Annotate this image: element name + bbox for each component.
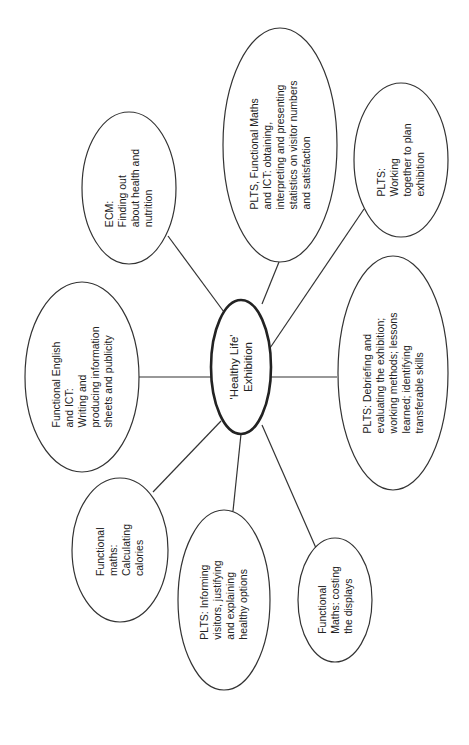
node-label-plts-debriefing: PLTS: Debriefing and evaluating the exhi…: [361, 313, 426, 434]
node-label-plts-informing: PLTS: Informing visitors, justifying and…: [198, 560, 250, 639]
connector-plts-maths-ict: [262, 262, 279, 304]
node-label-plts-maths-ict: PLTS, Functional Maths and ICT: obtainin…: [248, 81, 313, 210]
connector-plts-informing: [233, 434, 241, 511]
node-label-plts-working: PLTS: Working together to plan exhibitio…: [375, 124, 427, 197]
connector-maths-calories: [153, 421, 221, 492]
node-label-english-ict: Functional English and ICT: Writing and …: [50, 327, 115, 428]
center-node-label: 'Healthy Life' Exhibition: [227, 334, 255, 399]
node-label-maths-costing: Functional Maths: costing the displays: [316, 566, 355, 634]
connector-ecm: [168, 236, 224, 312]
connector-maths-costing: [262, 425, 316, 548]
node-label-ecm: ECM: Finding out about health and nutrit…: [103, 149, 155, 227]
node-label-maths-calories: Functional maths: Calculating calories: [94, 524, 146, 576]
